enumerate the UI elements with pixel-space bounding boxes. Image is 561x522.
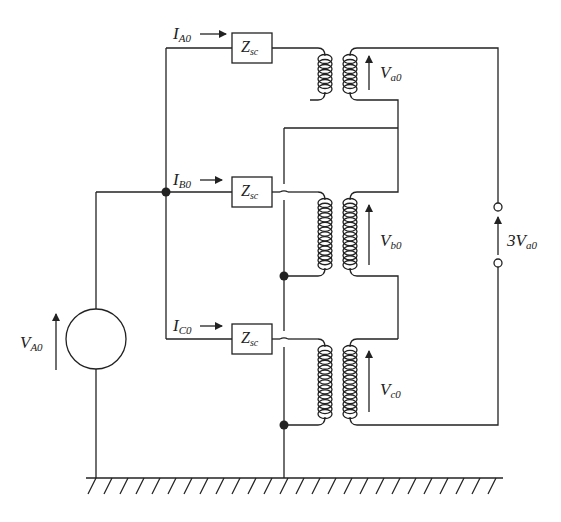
impedance-label-a: Zsc (241, 39, 258, 57)
impedance-label-b: Zsc (241, 183, 258, 201)
neutral-bus (284, 92, 398, 478)
junction-dot-neutral-b (280, 272, 289, 281)
ground-symbol (86, 478, 503, 494)
current-label-ib0: IB0 (173, 171, 191, 190)
voltage-label-vc0: Vc0 (380, 381, 401, 400)
voltage-label-va0: Va0 (380, 64, 401, 83)
voltage-source (66, 192, 166, 478)
impedance-label-c: Zsc (241, 330, 258, 348)
circuit-canvas (0, 0, 561, 522)
voltage-label-vb0: Vb0 (380, 232, 401, 251)
source-label-va0: VA0 (20, 334, 43, 353)
current-label-ia0: IA0 (173, 25, 191, 44)
output-label-3va0: 3Va0 (507, 232, 537, 251)
current-label-ic0: IC0 (173, 317, 192, 336)
junction-dot-neutral-c (280, 421, 289, 430)
secondary-open-delta (350, 48, 502, 425)
transformer-coils (318, 55, 357, 419)
